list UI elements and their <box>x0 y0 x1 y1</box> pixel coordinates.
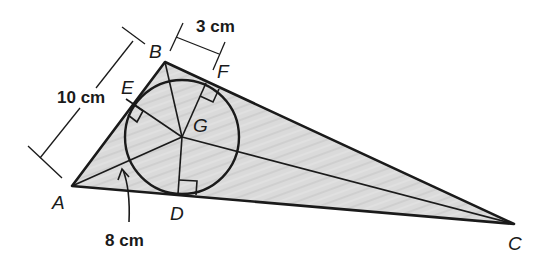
triangle-abc <box>72 62 514 224</box>
point-label-d: D <box>170 203 184 224</box>
point-label-f: F <box>217 61 230 82</box>
triangle-incircle-diagram: A B C D E F G 10 cm 3 cm 8 cm <box>0 0 547 272</box>
dimension-line-bf <box>176 37 219 54</box>
measurement-ag: 8 cm <box>105 231 144 250</box>
point-label-e: E <box>121 77 134 98</box>
vertex-label-c: C <box>508 233 522 254</box>
dimension-line-ab-lower <box>40 108 80 158</box>
measurement-ab: 10 cm <box>57 88 105 107</box>
dimension-tick-bf-start <box>170 23 183 51</box>
measurement-bf: 3 cm <box>196 17 235 36</box>
vertex-label-a: A <box>51 192 65 213</box>
dimension-tick-b <box>122 27 145 44</box>
vertex-label-b: B <box>149 41 162 62</box>
point-label-g: G <box>193 115 208 136</box>
